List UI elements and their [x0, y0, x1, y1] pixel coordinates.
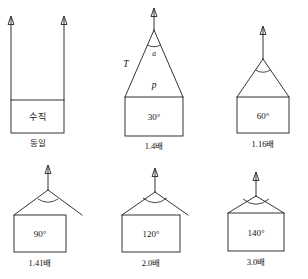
hoist-line-icon-30 — [151, 8, 157, 30]
load-symbol: p — [151, 80, 157, 90]
sling-leg-right-60 — [263, 59, 289, 97]
rope-left-vertical-icon — [8, 16, 14, 100]
hoist-line-icon-140 — [253, 172, 259, 196]
panel-vertical: 수직 동일 — [8, 16, 67, 148]
panel-60: 60° 1.16배 — [237, 26, 289, 149]
apex-angle-arc-140 — [243, 199, 269, 204]
panel-60-caption: 1.16배 — [252, 139, 275, 149]
panel-90: 90° 1.41배 — [14, 165, 82, 268]
panel-30-caption: 1.4배 — [145, 141, 164, 151]
sling-leg-left-90 — [14, 190, 48, 215]
tension-symbol: T — [123, 59, 129, 69]
sling-angle-figure-sheet: 수직 동일 a T p 30° 1.4배 — [0, 0, 308, 279]
panel-60-inner-label: 60° — [257, 111, 270, 121]
sling-leg-right-140 — [256, 196, 284, 213]
panel-30-inner-label: 30° — [148, 112, 161, 122]
panel-vertical-inner-label: 수직 — [29, 112, 47, 122]
apex-angle-arc-90 — [38, 199, 58, 202]
apex-angle-symbol: a — [152, 49, 156, 58]
sling-leg-left-120 — [122, 192, 155, 215]
panel-90-caption: 1.41배 — [29, 258, 52, 268]
apex-angle-arc-120 — [143, 198, 167, 203]
hoist-line-icon-120 — [152, 168, 158, 192]
panel-140: 140° 3.0배 — [228, 172, 284, 267]
panel-120-caption: 2.0배 — [142, 258, 161, 268]
sling-leg-left-140 — [228, 196, 256, 213]
panel-30: a T p 30° 1.4배 — [123, 8, 183, 151]
sling-angle-diagram: 수직 동일 a T p 30° 1.4배 — [0, 0, 308, 279]
panel-140-caption: 3.0배 — [247, 257, 266, 267]
hoist-line-icon-90 — [45, 165, 51, 190]
sling-leg-right-90 — [48, 190, 82, 215]
panel-120: 120° 2.0배 — [122, 168, 188, 268]
sling-leg-left-60 — [237, 59, 263, 97]
rope-right-vertical-icon — [61, 16, 67, 100]
sling-leg-right-120 — [155, 192, 188, 215]
apex-angle-arc-30 — [147, 45, 160, 47]
apex-angle-arc-60 — [256, 70, 271, 72]
panel-140-inner-label: 140° — [247, 228, 265, 238]
hoist-line-icon-60 — [260, 26, 266, 59]
sling-leg-left-30 — [125, 30, 154, 97]
panel-120-inner-label: 120° — [142, 229, 160, 239]
sling-leg-right-30 — [154, 30, 183, 97]
panel-vertical-caption: 동일 — [30, 138, 46, 148]
panel-90-inner-label: 90° — [34, 229, 47, 239]
